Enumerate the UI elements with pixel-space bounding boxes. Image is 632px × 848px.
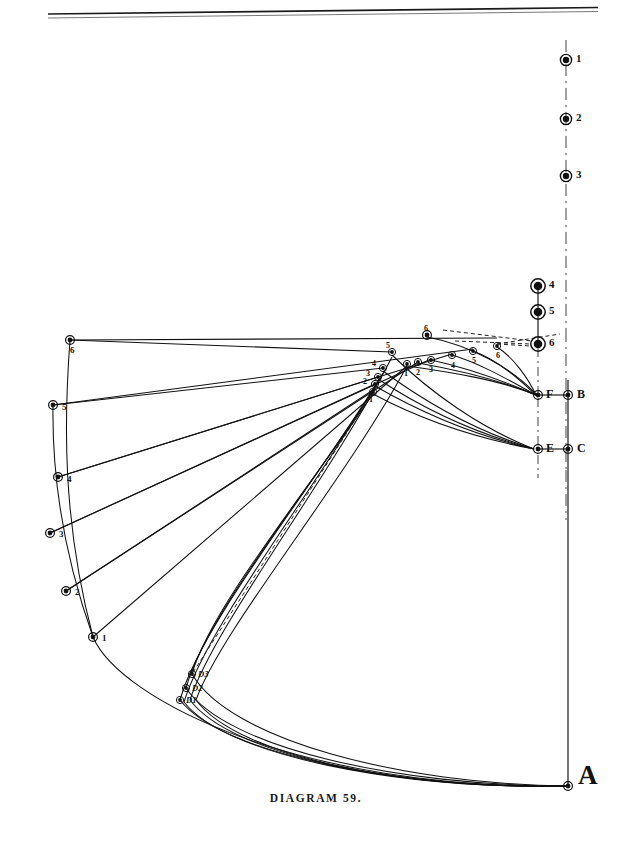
point-right-1[interactable] <box>560 54 571 65</box>
point-D1[interactable] <box>176 696 183 703</box>
label-left-5: 5 <box>62 403 67 412</box>
left-column-arcs <box>53 340 93 637</box>
label-left-4: 4 <box>67 475 72 484</box>
label-D1: D1 <box>186 696 196 705</box>
diagram-plate: 1 2 3 4 5 6 F E B C A 6 5 4 3 2 1 5 4 3 … <box>0 0 632 848</box>
label-D3: D3 <box>198 670 208 679</box>
label-cluster-row-1: 1 <box>404 370 408 378</box>
diagram-svg <box>0 0 632 848</box>
point-cluster-row-5[interactable] <box>469 347 476 354</box>
point-left-4[interactable] <box>54 473 63 482</box>
label-axis-4: 4 <box>549 279 555 290</box>
label-A: A <box>578 762 598 789</box>
label-axis-F: F <box>546 388 553 400</box>
radial-lines <box>50 338 497 637</box>
label-D2: D2 <box>192 684 202 693</box>
label-axis-5: 5 <box>549 305 555 316</box>
label-cluster-row-4: 4 <box>451 362 455 370</box>
label-right-1: 1 <box>576 53 582 64</box>
top-rule <box>48 8 598 19</box>
label-cluster-left-5: 5 <box>386 342 390 350</box>
sweeping-curves-to-A <box>93 357 568 786</box>
figure-caption: DIAGRAM 59. <box>0 792 632 804</box>
label-cluster-row-5: 5 <box>472 357 476 365</box>
label-cluster-row-3: 3 <box>429 366 433 374</box>
label-cluster-row-6: 6 <box>496 352 500 360</box>
label-cluster-top-6: 6 <box>424 325 428 333</box>
label-B: B <box>577 388 585 400</box>
label-axis-6: 6 <box>549 337 555 348</box>
label-C: C <box>577 442 586 454</box>
label-cluster-row-2: 2 <box>416 369 420 377</box>
label-axis-E: E <box>546 442 554 454</box>
point-cluster-row-6[interactable] <box>493 342 500 349</box>
label-cluster-left-1: 1 <box>369 396 373 404</box>
label-left-2: 2 <box>75 588 80 597</box>
arcs-to-F <box>407 337 536 395</box>
label-cluster-left-2: 2 <box>363 378 367 386</box>
label-right-3: 3 <box>576 169 582 180</box>
label-right-2: 2 <box>576 112 582 123</box>
label-left-3: 3 <box>59 530 64 539</box>
label-left-1: 1 <box>102 634 107 643</box>
point-left-2[interactable] <box>62 587 71 596</box>
label-left-6: 6 <box>70 346 75 355</box>
label-cluster-left-4: 4 <box>372 360 376 368</box>
point-left-3[interactable] <box>46 529 55 538</box>
dashed-construction <box>192 330 560 674</box>
point-left-1[interactable] <box>89 633 98 642</box>
point-right-3[interactable] <box>560 170 571 181</box>
axis-solid-segments <box>538 286 568 786</box>
